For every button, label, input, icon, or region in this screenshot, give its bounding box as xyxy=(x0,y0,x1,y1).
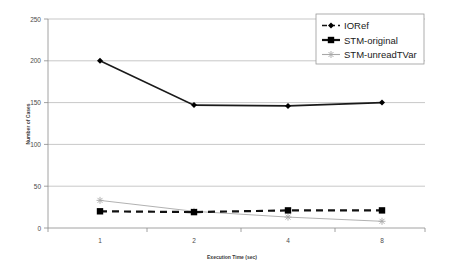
legend-marker-square xyxy=(328,37,334,43)
y-axis-title: Number of Cases xyxy=(25,103,31,144)
marker-square xyxy=(379,207,385,213)
legend-label: STM-unreadTVar xyxy=(344,49,417,60)
marker-asterisk xyxy=(97,197,104,204)
marker-square xyxy=(97,208,103,214)
legend-label: STM-original xyxy=(344,35,398,46)
x-tick-label: 4 xyxy=(286,237,290,244)
legend: IORef STM-original STM-unreadTVar xyxy=(316,14,424,64)
y-tick-label: 100 xyxy=(30,141,41,148)
y-tick-label: 200 xyxy=(30,57,41,64)
x-tick-label: 1 xyxy=(98,237,102,244)
x-tick-label: 8 xyxy=(380,237,384,244)
chart-svg: 250 200 150 100 50 0 1 2 4 8 Execution T… xyxy=(0,0,451,272)
marker-asterisk xyxy=(379,218,386,225)
y-tick-label: 0 xyxy=(37,225,41,232)
legend-marker-asterisk xyxy=(328,51,335,58)
marker-square xyxy=(285,207,291,213)
legend-label: IORef xyxy=(344,20,369,31)
x-axis-title: Execution Time (sec) xyxy=(207,254,257,260)
line-chart: 250 200 150 100 50 0 1 2 4 8 Execution T… xyxy=(0,0,451,272)
y-tick-label: 150 xyxy=(30,99,41,106)
marker-asterisk xyxy=(285,214,292,221)
marker-square xyxy=(191,209,197,215)
x-tick-label: 2 xyxy=(192,237,196,244)
y-tick-label: 50 xyxy=(34,183,42,190)
y-tick-label: 250 xyxy=(30,16,41,23)
